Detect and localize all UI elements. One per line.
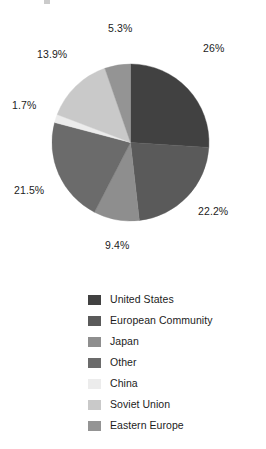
legend-swatch-eastern-europe xyxy=(88,421,101,431)
pie-label-eastern-europe: 5.3% xyxy=(108,22,132,34)
pie-slices xyxy=(52,64,209,221)
legend-label-united-states: United States xyxy=(110,294,174,305)
legend-label-soviet-union: Soviet Union xyxy=(110,399,170,410)
legend-swatch-soviet-union xyxy=(88,400,101,410)
pie-slice-united-states xyxy=(131,64,210,147)
pie-label-japan: 9.4% xyxy=(105,239,129,251)
pie-chart: 5.3% 26% 13.9% 1.7% 21.5% 22.2% 9.4% xyxy=(0,0,266,285)
legend-item-eastern-europe: Eastern Europe xyxy=(88,415,266,436)
legend-label-other: Other xyxy=(110,357,137,368)
legend-item-soviet-union: Soviet Union xyxy=(88,394,266,415)
legend-item-other: Other xyxy=(88,352,266,373)
legend-swatch-other xyxy=(88,358,101,368)
legend-label-china: China xyxy=(110,378,138,389)
chart-legend: United StatesEuropean CommunityJapanOthe… xyxy=(88,289,266,436)
pie-chart-graphic xyxy=(0,0,266,285)
legend-item-european-community: European Community xyxy=(88,310,266,331)
pie-label-other: 21.5% xyxy=(14,184,44,196)
legend-label-japan: Japan xyxy=(110,336,139,347)
pie-label-china: 1.7% xyxy=(12,99,36,111)
legend-swatch-china xyxy=(88,379,101,389)
legend-swatch-european-community xyxy=(88,316,101,326)
legend-swatch-united-states xyxy=(88,295,101,305)
legend-swatch-japan xyxy=(88,337,101,347)
legend-item-china: China xyxy=(88,373,266,394)
legend-item-united-states: United States xyxy=(88,289,266,310)
pie-label-soviet-union: 13.9% xyxy=(37,48,67,60)
legend-item-japan: Japan xyxy=(88,331,266,352)
legend-label-eastern-europe: Eastern Europe xyxy=(110,420,184,431)
pie-label-united-states: 26% xyxy=(203,42,224,54)
legend-label-european-community: European Community xyxy=(110,315,212,326)
pie-label-european-community: 22.2% xyxy=(198,205,228,217)
